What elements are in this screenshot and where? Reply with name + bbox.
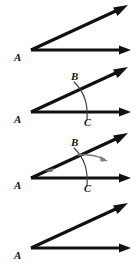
angle-construction-figure: A B C A B C A — [0, 0, 139, 264]
vertex-label-a: A — [13, 113, 21, 125]
panel-2-canvas: B C A — [0, 62, 139, 128]
upper-ray-arrowhead — [113, 67, 128, 78]
panel-4-canvas: A — [0, 196, 139, 264]
horizontal-ray-arrowhead — [119, 244, 131, 253]
vertex-label-a: A — [13, 249, 21, 261]
arc-point-label-b: B — [70, 136, 78, 148]
arc-point-label-c: C — [84, 183, 92, 194]
panel-3-canvas: B C A — [0, 128, 139, 194]
arc-point-label-c: C — [84, 117, 92, 128]
horizontal-ray-arrowhead — [119, 108, 131, 117]
upper-ray-arrowhead — [113, 203, 128, 214]
compass-sweep-arrowhead — [100, 156, 108, 162]
vertex-label-a: A — [13, 179, 21, 191]
horizontal-ray-arrowhead — [119, 174, 131, 183]
construction-panel-step-1: A — [0, 0, 139, 66]
upper-ray-arrowhead — [113, 5, 128, 16]
upper-ray — [31, 9, 120, 50]
arc-point-label-b: B — [70, 70, 78, 82]
construction-panel-step-2: B C A — [0, 62, 139, 128]
construction-panel-step-3: B C A — [0, 128, 139, 194]
horizontal-ray-arrowhead — [119, 46, 131, 55]
upper-ray-arrowhead — [113, 133, 128, 144]
upper-ray — [31, 207, 120, 248]
panel-1-canvas: A — [0, 0, 139, 66]
construction-panel-step-4: A — [0, 196, 139, 264]
